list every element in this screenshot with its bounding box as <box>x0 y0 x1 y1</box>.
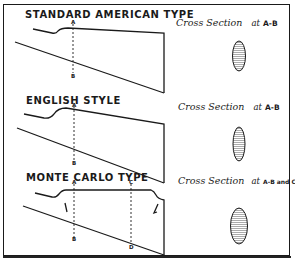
stock-outline-standard-american <box>15 28 164 93</box>
point-b-3: B <box>72 236 76 242</box>
point-a-2: A <box>72 102 76 108</box>
cross-section-oval-2 <box>233 127 245 161</box>
cross-section-at: at <box>251 18 259 28</box>
cross-section-label-2: Cross Section at A-B <box>178 101 280 112</box>
cross-section-text: Cross Section <box>178 175 244 186</box>
cross-section-at: at <box>253 102 261 112</box>
cross-section-oval-1 <box>233 41 246 71</box>
point-d-3: D <box>129 244 134 250</box>
cross-section-label-3: Cross Section at A-B and C-D <box>178 175 295 186</box>
cross-section-ref: A-B <box>263 19 278 28</box>
cross-section-text: Cross Section <box>178 101 244 112</box>
cross-section-ref: A-B and C-D <box>263 178 295 185</box>
point-c-3: C <box>129 179 133 185</box>
point-a-3: A <box>72 179 76 185</box>
cross-section-label-1: Cross Section at A-B <box>176 17 278 28</box>
panel-title-standard-american: STANDARD AMERICAN TYPE <box>25 9 194 20</box>
cross-section-text: Cross Section <box>176 17 242 28</box>
cross-section-ref: A-B <box>265 103 280 112</box>
cross-section-oval-3 <box>231 208 248 244</box>
point-a-1: A <box>71 19 75 25</box>
stock-drawings <box>0 0 295 265</box>
point-b-1: B <box>71 73 75 79</box>
cross-section-at: at <box>251 176 259 186</box>
stock-outline-monte-carlo <box>23 190 164 255</box>
point-b-2: B <box>72 160 76 166</box>
